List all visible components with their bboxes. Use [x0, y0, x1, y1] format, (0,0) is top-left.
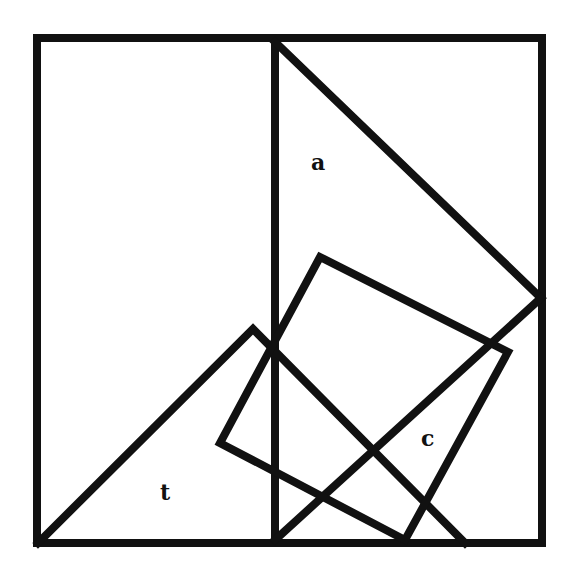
geometry-diagram: a t c [0, 0, 574, 574]
diagonal-up-right [275, 298, 541, 540]
label-a: a [311, 149, 325, 175]
triangle-t [38, 329, 465, 543]
rotated-square-c [220, 257, 508, 540]
label-c: c [421, 425, 434, 451]
label-t: t [160, 479, 171, 505]
